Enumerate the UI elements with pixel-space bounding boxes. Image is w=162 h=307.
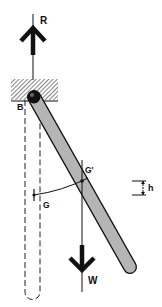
reaction-label: R — [40, 15, 48, 26]
height-dimension — [132, 181, 146, 195]
cog-displaced-marker — [80, 179, 84, 183]
cog-rest-label: G — [43, 200, 50, 210]
cog-displaced-label: G' — [85, 165, 94, 175]
cog-rest-marker — [32, 189, 35, 201]
pendulum-diagram: R B G G' W h — [0, 0, 162, 307]
rest-position-outline — [25, 100, 40, 300]
pivot-pin — [28, 91, 41, 104]
pivot-highlight — [30, 93, 34, 97]
height-label: h — [148, 183, 154, 193]
pivot-label: B — [17, 102, 24, 112]
weight-force-arrow — [70, 245, 94, 270]
weight-label: W — [88, 275, 98, 286]
